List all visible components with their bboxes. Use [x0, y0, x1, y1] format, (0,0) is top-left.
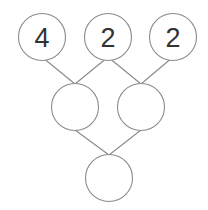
edge-top2-mid2 — [108, 57, 141, 84]
node-mid-2 — [118, 84, 165, 131]
node-bottom — [86, 155, 133, 202]
edge-top1-mid1 — [42, 57, 75, 84]
node-label: 4 — [34, 23, 49, 53]
node-top-3: 2 — [150, 14, 197, 61]
number-pyramid-diagram: 4 2 2 — [0, 0, 208, 210]
diagram-canvas: 4 2 2 — [0, 0, 208, 210]
edge-mid2-bottom — [109, 130, 141, 155]
edge-mid1-bottom — [75, 130, 109, 155]
node-top-2: 2 — [85, 14, 132, 61]
node-label: 2 — [165, 23, 180, 53]
node-label: 2 — [100, 23, 115, 53]
edge-top3-mid2 — [141, 57, 173, 84]
edge-top2-mid1 — [75, 57, 108, 84]
node-top-1: 4 — [19, 14, 66, 61]
node-mid-1 — [52, 84, 99, 131]
